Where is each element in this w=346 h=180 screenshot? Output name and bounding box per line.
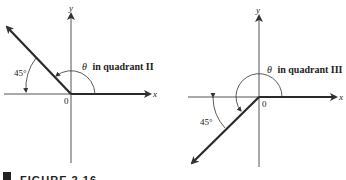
- reference-angle-arc: [213, 97, 225, 128]
- theta-arc: [56, 71, 95, 94]
- terminal-side-ray: [192, 97, 259, 163]
- y-axis-label: y: [68, 3, 73, 13]
- theta-symbol: θ: [267, 64, 272, 75]
- caption-text: FIGURE 2.16: [20, 174, 97, 180]
- diagram-quadrant-iii: y x 0 45° θ in quadrant III: [188, 5, 343, 167]
- figure-caption: FIGURE 2.16: [3, 172, 97, 180]
- origin-label: 0: [64, 96, 69, 106]
- figure-canvas: y x 0 45° θ in quadrant II y x 0 45° θ i…: [0, 0, 346, 180]
- origin-label: 0: [262, 99, 267, 109]
- angle-text: in quadrant II: [92, 61, 153, 72]
- theta-symbol: θ: [82, 61, 87, 72]
- reference-angle-arc: [26, 58, 36, 92]
- x-axis-label: x: [338, 92, 343, 102]
- x-axis-label: x: [152, 89, 157, 99]
- angle-label: θ in quadrant II: [82, 61, 154, 72]
- reference-angle-label: 45°: [14, 68, 27, 78]
- caption-square-icon: [3, 172, 11, 180]
- y-axis-label: y: [255, 5, 260, 15]
- reference-angle-label: 45°: [200, 117, 213, 127]
- angle-label: θ in quadrant III: [267, 64, 343, 75]
- terminal-side-ray: [7, 27, 71, 94]
- diagram-quadrant-ii: y x 0 45° θ in quadrant II: [4, 3, 157, 163]
- angle-text: in quadrant III: [277, 64, 342, 75]
